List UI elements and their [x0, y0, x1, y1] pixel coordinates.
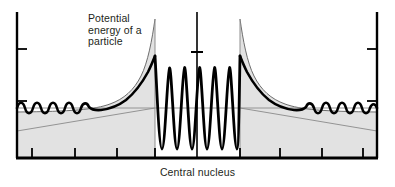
shaded-region-right [240, 19, 377, 158]
central-nucleus-caption: Central nucleus [0, 166, 395, 178]
potential-energy-label: Potential energy of a particle [88, 13, 142, 48]
potential-energy-diagram [0, 0, 395, 187]
figure-container: Potential energy of a particle Central n… [0, 0, 395, 187]
